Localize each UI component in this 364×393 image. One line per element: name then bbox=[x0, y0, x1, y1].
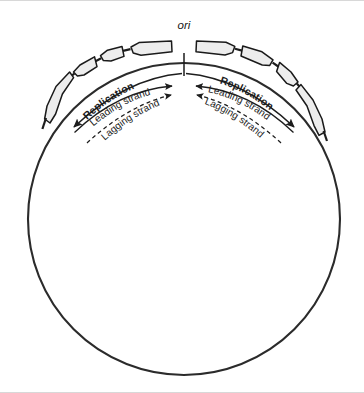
gene-arrow-left-4 bbox=[45, 72, 74, 123]
gene-arrow-left-3 bbox=[74, 57, 98, 76]
gene-arrow-right-2 bbox=[241, 46, 273, 66]
gene-connector-left-1 bbox=[123, 49, 131, 51]
chromosome-circle bbox=[28, 63, 340, 375]
gene-arrow-left-2 bbox=[101, 46, 125, 61]
ori-label: ori bbox=[178, 19, 191, 31]
gene-arrow-left-1 bbox=[131, 41, 172, 55]
replication-diagram-svg: ori bbox=[0, 1, 364, 393]
gene-connector-right-1 bbox=[235, 49, 242, 51]
gene-connector-left-4 bbox=[42, 118, 46, 129]
gene-arrow-right-3 bbox=[277, 62, 298, 86]
gene-arrow-right-1 bbox=[196, 41, 235, 55]
figure-canvas: ori bbox=[0, 0, 364, 393]
